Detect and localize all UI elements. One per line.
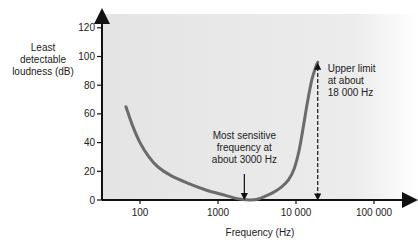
x-axis-title: Frequency (Hz) [226,227,295,238]
y-axis-title-line: Least [31,42,56,53]
y-tick-label: 20 [84,166,96,177]
y-axis: 020406080100120 [78,16,102,206]
x-tick-label: 100 [132,207,149,218]
x-tick-label: 100 000 [356,207,393,218]
x-tick-label: 10 000 [281,207,312,218]
y-axis-title-line: loudness (dB) [12,66,74,77]
hearing-threshold-chart: 020406080100120 100100010 000100 000 Mos… [0,0,418,248]
annotation-line: Upper limit [328,63,376,74]
annotation-line: frequency at [217,142,272,153]
x-axis: 100100010 000100 000 [102,200,410,218]
x-tick-label: 1000 [207,207,230,218]
annotation-line: at about [328,75,364,86]
most-sensitive-label: Most sensitivefrequency atabout 3000 Hz [212,130,277,165]
y-tick-label: 0 [89,195,95,206]
y-tick-label: 40 [84,137,96,148]
plot-background [102,14,418,200]
y-tick-label: 120 [78,22,95,33]
annotation-line: about 3000 Hz [212,154,277,165]
y-axis-title: Leastdetectableloudness (dB) [12,42,74,77]
annotation-line: Most sensitive [213,130,277,141]
y-axis-title-line: detectable [20,54,67,65]
y-tick-label: 100 [78,51,95,62]
annotation-line: 18 000 Hz [328,87,374,98]
y-tick-label: 80 [84,80,96,91]
y-tick-label: 60 [84,108,96,119]
